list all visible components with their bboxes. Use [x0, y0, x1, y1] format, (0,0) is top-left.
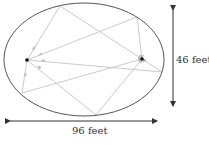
ray-top-to-right-focus [60, 6, 142, 59]
height-label: 46 feet [176, 54, 209, 65]
ray-bottom-to-right-focus [96, 59, 142, 115]
ray-upper-right-to-right-focus [137, 17, 142, 59]
left-focus-dot [25, 58, 29, 62]
ray-left-focus-to-right [27, 60, 162, 72]
ray-left-focus-to-bottom [27, 60, 96, 115]
ray-left-focus-to-upper-right [27, 17, 137, 60]
width-label: 96 feet [72, 125, 107, 136]
right-focus-dot [140, 57, 144, 61]
ray-left-focus-to-top [27, 6, 60, 60]
ray-lower-left-to-right-focus [22, 59, 142, 93]
ellipse-diagram [0, 0, 209, 145]
